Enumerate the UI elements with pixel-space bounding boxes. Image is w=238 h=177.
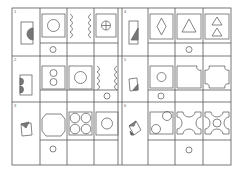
- key-figure-4: [129, 21, 138, 44]
- puzzle-grid: 1 4 2 5 3 6: [0, 0, 238, 177]
- option-square-two-triangles[interactable]: [205, 14, 229, 39]
- grid-border: [12, 8, 231, 165]
- key-figure-6: [129, 121, 141, 135]
- key-figure-1: [21, 22, 33, 44]
- option-x-shape-circle[interactable]: [205, 112, 229, 134]
- key-figure-5: [129, 78, 138, 91]
- option-octagon[interactable]: [42, 114, 65, 136]
- option-square-circle[interactable]: [150, 66, 173, 88]
- problem-number: 4: [124, 9, 127, 14]
- problem-number: 3: [14, 103, 17, 108]
- answer-marker: [186, 47, 192, 53]
- option-wavy-brackets[interactable]: [97, 66, 117, 90]
- option-square-two-circles[interactable]: [150, 112, 173, 135]
- answer-marker: [186, 147, 192, 153]
- option-square-circle[interactable]: [69, 66, 92, 89]
- answer-marker: [158, 93, 164, 99]
- option-octagon-notched[interactable]: [205, 66, 229, 88]
- answer-marker: [50, 47, 56, 53]
- key-figure-3: [21, 122, 32, 136]
- option-square-triangle[interactable]: [177, 14, 201, 39]
- key-figure-2: [20, 75, 32, 95]
- problem-number: 2: [14, 57, 17, 62]
- option-x-shape-concave[interactable]: [177, 112, 201, 134]
- option-circle-cross[interactable]: [96, 14, 116, 37]
- option-square-circle[interactable]: [42, 14, 65, 37]
- option-square-diamond[interactable]: [150, 14, 173, 39]
- option-square-notched-corner[interactable]: [177, 66, 201, 88]
- answer-marker: [104, 93, 110, 99]
- option-four-circles[interactable]: [69, 112, 92, 135]
- option-wavy-brackets[interactable]: [70, 14, 91, 38]
- problem-number: 6: [124, 103, 127, 108]
- option-square-circle[interactable]: [96, 112, 118, 135]
- problem-number: 5: [124, 57, 127, 62]
- problem-number: 1: [14, 9, 17, 14]
- answer-marker: [50, 146, 56, 152]
- option-square-two-circles[interactable]: [42, 66, 65, 89]
